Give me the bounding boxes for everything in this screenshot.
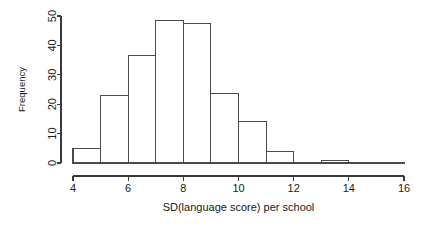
y-tick-label: 0 xyxy=(46,160,58,166)
x-axis-title: SD(language score) per school xyxy=(163,201,315,213)
x-tick-label: 12 xyxy=(288,182,300,194)
bars-group xyxy=(73,20,404,163)
y-tick-label: 50 xyxy=(46,10,58,22)
x-tick-label: 4 xyxy=(70,182,76,194)
y-tick-label: 20 xyxy=(46,98,58,110)
y-axis-title: Frequency xyxy=(16,67,27,112)
x-tick-label: 6 xyxy=(125,182,131,194)
histogram-bar xyxy=(211,94,239,163)
histogram-bar xyxy=(266,151,294,163)
histogram-plot: 01020304050Frequency46810121416SD(langua… xyxy=(0,0,429,234)
x-tick-label: 8 xyxy=(180,182,186,194)
histogram-bar xyxy=(73,148,101,163)
y-tick-label: 40 xyxy=(46,39,58,51)
y-tick-label: 30 xyxy=(46,69,58,81)
histogram-figure: 01020304050Frequency46810121416SD(langua… xyxy=(0,0,429,234)
x-tick-label: 10 xyxy=(232,182,244,194)
histogram-bar xyxy=(294,162,322,163)
histogram-bar xyxy=(321,160,349,163)
y-axis: 01020304050 xyxy=(46,10,61,166)
histogram-bar xyxy=(156,20,184,163)
x-tick-label: 16 xyxy=(398,182,410,194)
y-tick-label: 10 xyxy=(46,127,58,139)
histogram-bar xyxy=(349,162,377,163)
histogram-bar xyxy=(376,162,404,163)
histogram-bar xyxy=(239,122,267,163)
histogram-bar xyxy=(128,56,156,163)
x-axis: 46810121416 xyxy=(70,176,410,194)
histogram-bar xyxy=(101,95,129,163)
histogram-bar xyxy=(183,23,211,163)
x-tick-label: 14 xyxy=(343,182,355,194)
